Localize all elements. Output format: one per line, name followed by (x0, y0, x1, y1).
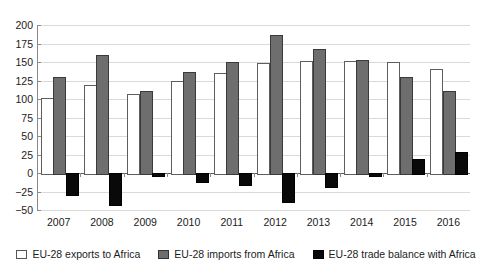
bar-imports (140, 91, 153, 175)
balance-swatch (313, 250, 324, 259)
bar-balance (152, 173, 165, 177)
bar-imports (356, 60, 369, 175)
x-tick-mark (383, 173, 384, 177)
bar-imports (313, 49, 326, 175)
bar-group (254, 25, 297, 210)
bar-group (383, 25, 426, 210)
x-tick-label-2015: 2015 (383, 216, 426, 228)
x-tick-label-2014: 2014 (340, 216, 383, 228)
bar-balance (455, 152, 468, 175)
x-tick-label-2007: 2007 (37, 216, 80, 228)
y-tick-label: 0 (3, 168, 33, 179)
bar-balance (369, 173, 382, 177)
x-tick-mark (427, 173, 428, 177)
y-tick-label: 75 (3, 113, 33, 124)
x-tick-mark (80, 173, 81, 177)
bar-balance (66, 173, 79, 196)
bar-imports (53, 77, 66, 175)
bar-balance (239, 173, 252, 186)
bar-exports (300, 61, 313, 175)
y-tick-label: −25 (3, 187, 33, 198)
x-tick-mark (124, 173, 125, 177)
bar-imports (226, 62, 239, 175)
x-tick-mark (340, 173, 341, 177)
legend-label: EU-28 imports from Africa (174, 249, 294, 260)
y-tick-label: 150 (3, 57, 33, 68)
y-axis-tick-labels: 2001751501251007550250−25−50 (0, 25, 33, 210)
bar-exports (214, 73, 227, 175)
bar-exports (430, 69, 443, 175)
x-tick-label-2009: 2009 (124, 216, 167, 228)
bar-imports (183, 72, 196, 175)
plot-area (37, 25, 470, 210)
y-tick-mark (37, 99, 41, 100)
bar-group (210, 25, 253, 210)
bar-exports (84, 85, 97, 175)
bar-balance (325, 173, 338, 188)
x-tick-mark (297, 173, 298, 177)
bar-group (37, 25, 80, 210)
y-tick-label: 50 (3, 131, 33, 142)
x-tick-label-2012: 2012 (254, 216, 297, 228)
gridline (37, 210, 470, 211)
bar-balance (196, 173, 209, 183)
bar-exports (257, 63, 270, 175)
exports-swatch (16, 250, 27, 259)
legend-label: EU-28 trade balance with Africa (329, 249, 476, 260)
bar-group (80, 25, 123, 210)
x-tick-mark (167, 173, 168, 177)
y-tick-mark (37, 155, 41, 156)
y-tick-label: 100 (3, 94, 33, 105)
x-tick-label-2010: 2010 (167, 216, 210, 228)
bar-group (124, 25, 167, 210)
bar-chart: 2001751501251007550250−25−50 20072008200… (0, 0, 492, 271)
x-tick-label-2013: 2013 (297, 216, 340, 228)
y-tick-label: −50 (3, 205, 33, 216)
x-tick-label-2008: 2008 (80, 216, 123, 228)
legend-label: EU-28 exports to Africa (32, 249, 140, 260)
bar-group (167, 25, 210, 210)
imports-swatch (158, 250, 169, 259)
bar-imports (270, 35, 283, 175)
bar-imports (96, 55, 109, 175)
y-tick-mark (37, 44, 41, 45)
legend-item[interactable]: EU-28 imports from Africa (158, 249, 294, 260)
bar-balance (412, 159, 425, 175)
y-tick-label: 175 (3, 39, 33, 50)
bar-balance (282, 173, 295, 203)
bar-group (340, 25, 383, 210)
x-tick-mark (254, 173, 255, 177)
x-tick-mark (210, 173, 211, 177)
bar-balance (109, 173, 122, 206)
x-axis-tick-labels: 2007200820092010201120122013201420152016 (37, 216, 470, 230)
y-tick-mark (37, 25, 41, 26)
y-tick-label: 125 (3, 76, 33, 87)
y-tick-mark (37, 81, 41, 82)
legend-item[interactable]: EU-28 trade balance with Africa (313, 249, 476, 260)
bar-exports (171, 81, 184, 176)
y-tick-mark (37, 136, 41, 137)
bar-imports (443, 91, 456, 175)
bar-group (427, 25, 470, 210)
bar-group (297, 25, 340, 210)
bar-exports (344, 61, 357, 175)
y-tick-label: 25 (3, 150, 33, 161)
chart-legend: EU-28 exports to AfricaEU-28 imports fro… (0, 245, 492, 263)
bar-exports (387, 62, 400, 175)
y-tick-mark (37, 192, 41, 193)
y-tick-mark (37, 173, 41, 174)
x-tick-label-2011: 2011 (210, 216, 253, 228)
y-tick-mark (37, 118, 41, 119)
legend-item[interactable]: EU-28 exports to Africa (16, 249, 140, 260)
y-tick-mark (37, 62, 41, 63)
bar-exports (41, 98, 54, 175)
bar-exports (127, 94, 140, 175)
x-tick-label-2016: 2016 (427, 216, 470, 228)
y-tick-label: 200 (3, 20, 33, 31)
y-tick-mark (37, 210, 41, 211)
bar-imports (400, 77, 413, 175)
